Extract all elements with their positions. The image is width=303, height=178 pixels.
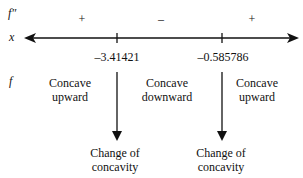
down-arrow-1-icon	[112, 131, 122, 141]
concavity-interval-3: Concave upward	[212, 76, 302, 104]
concavity-interval-1: Concave upward	[25, 76, 115, 104]
f-label: f	[9, 74, 12, 89]
critical-point-2: –0.585786	[178, 50, 268, 65]
critical-point-1: –3.41421	[72, 50, 162, 65]
x-label: x	[9, 30, 14, 45]
sign-interval-2: –	[151, 12, 171, 27]
sign-interval-3: +	[242, 12, 262, 27]
inflection-label-2: Change of concavity	[176, 146, 266, 174]
concavity-interval-2: Concave downward	[122, 76, 212, 104]
inflection-label-1: Change of concavity	[70, 146, 160, 174]
sign-interval-1: +	[72, 12, 92, 27]
second-derivative-label: f″	[8, 6, 16, 21]
down-arrow-2-icon	[217, 131, 227, 141]
